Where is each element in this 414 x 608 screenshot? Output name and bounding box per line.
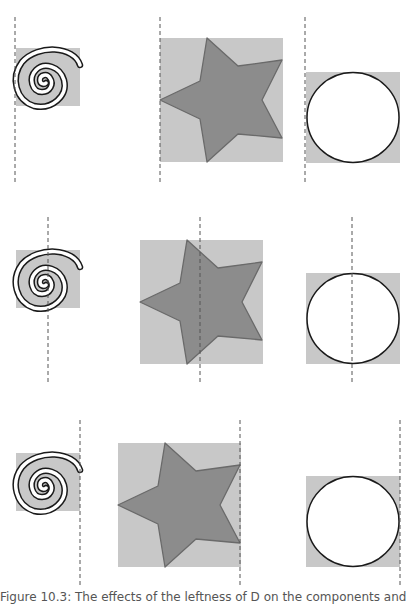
row-2 bbox=[16, 217, 400, 384]
circle-shape-2 bbox=[306, 273, 400, 364]
spiral-shape-2 bbox=[16, 250, 80, 309]
circle-shape-1 bbox=[306, 72, 400, 163]
star-shape-3 bbox=[118, 443, 241, 567]
figure-caption: Figure 10.3: The effects of the leftness… bbox=[0, 590, 414, 608]
spiral-shape-3 bbox=[16, 453, 80, 512]
star-shape-2 bbox=[140, 240, 263, 364]
star-shape-1 bbox=[160, 38, 283, 162]
row-1 bbox=[15, 17, 400, 183]
circle-shape-3 bbox=[306, 476, 400, 567]
spiral-shape-1 bbox=[16, 48, 80, 107]
row-3 bbox=[16, 420, 400, 588]
